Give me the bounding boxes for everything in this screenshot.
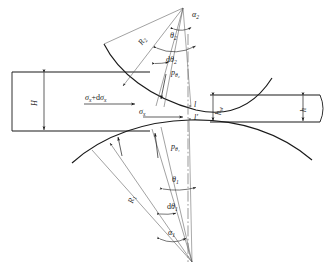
label-theta2: θ2 [170, 32, 177, 40]
label-point-l: l [194, 101, 196, 109]
p-theta1-arrow [118, 133, 158, 158]
label-sigma-x: σx [139, 108, 145, 116]
label-hw: hw [215, 107, 223, 115]
point-l-prime-marker [189, 118, 190, 119]
label-dtheta2: dθ2 [166, 56, 177, 64]
rolling-deformation-zone-diagram: α2 θ2 dθ2 pθ₂ R2 R1 H hw h σx+dσx σx l l… [0, 0, 328, 267]
label-p-theta1: pθ₁ [171, 143, 180, 151]
label-h: h [300, 108, 308, 112]
label-p-theta2: pθ₂ [171, 69, 180, 77]
point-l-marker [189, 105, 190, 106]
label-alpha1: α1 [168, 229, 175, 237]
label-H: H [31, 100, 39, 106]
lower-roll-arc [72, 120, 312, 163]
diagram-canvas [0, 0, 328, 267]
label-dtheta1: dθ1 [167, 203, 178, 211]
label-theta1: θ1 [172, 176, 179, 184]
label-point-l-prime: l′ [194, 114, 198, 122]
upper-radius-lines [104, 8, 191, 107]
label-sigma-x-plus-dsigma-x: σx+dσx [85, 94, 106, 102]
label-alpha2: α2 [192, 11, 199, 19]
